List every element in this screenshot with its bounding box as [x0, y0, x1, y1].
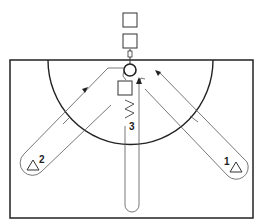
backboard — [128, 51, 132, 57]
square-lane — [118, 81, 132, 95]
player-3-label: 3 — [129, 121, 135, 132]
player-2-triangle-icon — [27, 160, 39, 170]
player-2-label: 2 — [39, 154, 45, 165]
arrow-icon — [82, 87, 88, 93]
drill-diagram: 2 1 3 — [0, 0, 260, 224]
arrow-icon — [155, 70, 161, 76]
player-1-triangle-icon — [230, 162, 242, 172]
dribble-zigzag — [125, 100, 134, 118]
lane-player-1 — [145, 73, 248, 179]
player-1-label: 1 — [224, 156, 230, 167]
tick-mark — [63, 118, 69, 124]
hoop — [124, 64, 136, 76]
square-top-1 — [123, 13, 137, 27]
tick-mark — [190, 116, 198, 122]
lane-player-2 — [20, 68, 124, 175]
square-top-2 — [123, 34, 137, 48]
